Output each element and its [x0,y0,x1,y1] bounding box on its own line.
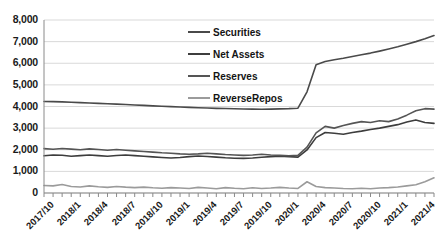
gridlines [44,20,434,193]
legend-swatch-icon [188,53,210,55]
line-chart: 8,0007,0006,0005,0004,0003,0002,0001,000… [0,0,439,247]
series-line-reserves [44,109,434,156]
legend-item-net-assets[interactable]: Net Assets [188,48,264,60]
legend-swatch-icon [188,31,210,33]
legend-label: Net Assets [213,49,264,60]
legend-item-reserves[interactable]: Reserves [188,70,257,82]
legend-swatch-icon [188,75,210,77]
series-line-reverserepos [44,178,434,189]
series-line-net-assets [44,120,434,158]
legend-label: Securities [213,27,261,38]
legend-item-reverserepos[interactable]: ReverseRepos [188,92,282,104]
legend-item-securities[interactable]: Securities [188,26,261,38]
x-axis-ticks [44,193,434,197]
legend-label: ReverseRepos [213,93,282,104]
legend-swatch-icon [188,97,210,99]
legend-label: Reserves [213,71,257,82]
